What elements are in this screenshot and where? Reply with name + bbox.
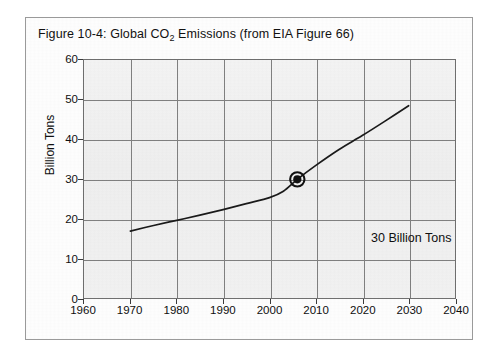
x-tick-label-1970: 1970 (117, 304, 143, 316)
x-tick-label-2010: 2010 (303, 304, 329, 316)
y-tick-label-10: 10 (65, 253, 78, 265)
x-tick-label-2040: 2040 (443, 304, 469, 316)
chart-title: Figure 10-4: Global CO2 Emissions (from … (38, 27, 354, 43)
y-tick-label-50: 50 (65, 93, 78, 105)
chart-title-suffix: Emissions (from EIA Figure 66) (175, 27, 355, 41)
figure-frame: Figure 10-4: Global CO2 Emissions (from … (25, 17, 473, 340)
x-tick-label-2030: 2030 (397, 304, 423, 316)
y-axis-tick-labels: 60 50 40 30 20 10 0 (46, 59, 78, 299)
y-tick-mark-60 (78, 59, 83, 60)
data-point-marker (293, 175, 301, 183)
y-tick-label-20: 20 (65, 213, 78, 225)
x-axis-tick-labels: 1960 1970 1980 1990 2000 2010 2020 2030 … (83, 304, 456, 322)
y-tick-mark-20 (78, 219, 83, 220)
x-tick-label-1960: 1960 (70, 304, 96, 316)
x-tick-label-2000: 2000 (257, 304, 283, 316)
curve-and-marker-layer (84, 60, 455, 299)
y-tick-label-40: 40 (65, 133, 78, 145)
x-tick-label-1980: 1980 (164, 304, 190, 316)
plot-area: 30 Billion Tons (83, 59, 456, 299)
x-tick-label-1990: 1990 (210, 304, 236, 316)
y-tick-label-30: 30 (65, 173, 78, 185)
y-tick-mark-30 (78, 179, 83, 180)
y-tick-mark-40 (78, 139, 83, 140)
chart-title-prefix: Figure 10-4: Global CO (38, 27, 169, 41)
y-tick-mark-50 (78, 99, 83, 100)
annotation-30-billion-tons: 30 Billion Tons (371, 231, 451, 245)
x-tick-label-2020: 2020 (350, 304, 376, 316)
y-tick-label-60: 60 (65, 53, 78, 65)
y-tick-mark-10 (78, 259, 83, 260)
